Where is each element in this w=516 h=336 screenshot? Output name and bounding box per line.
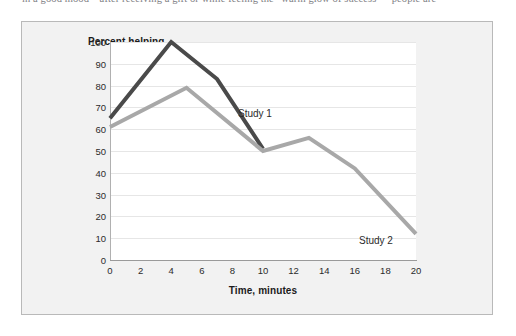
x-axis-tick-label: 8: [220, 265, 244, 276]
series-lines: [110, 42, 416, 261]
series-label-study-2: Study 2: [359, 235, 393, 246]
y-axis-tick-label: 50: [80, 146, 106, 157]
y-axis-tick-label: 80: [80, 80, 106, 91]
line-chart: Percent helping 0102030405060708090100 0…: [22, 22, 494, 316]
x-axis-title: Time, minutes: [110, 285, 416, 296]
x-axis-tick-label: 10: [251, 265, 275, 276]
x-axis-tick-label: 2: [129, 265, 153, 276]
page-text-fragment: in a good mood—after receiving a gift or…: [0, 0, 516, 9]
x-axis-tick-label: 14: [312, 265, 336, 276]
x-axis-tick-label: 0: [98, 265, 122, 276]
y-axis-tick-label: 20: [80, 211, 106, 222]
y-axis-tick-label: 10: [80, 233, 106, 244]
x-axis-tick-label: 16: [343, 265, 367, 276]
x-axis-tick-label: 12: [282, 265, 306, 276]
x-axis-tick-labels: 02468101214161820: [110, 265, 416, 279]
series-label-study-1: Study 1: [238, 108, 272, 119]
x-axis-tick-label: 20: [404, 265, 428, 276]
x-axis-tick-label: 18: [373, 265, 397, 276]
y-axis-tick-label: 90: [80, 58, 106, 69]
y-axis-tick-label: 60: [80, 124, 106, 135]
x-axis-tick-label: 6: [190, 265, 214, 276]
y-axis-tick-label: 30: [80, 189, 106, 200]
y-axis-tick-label: 100: [80, 37, 106, 48]
y-axis-tick-label: 0: [80, 255, 106, 266]
y-axis-tick-label: 70: [80, 102, 106, 113]
figure-panel: Percent helping 0102030405060708090100 0…: [21, 21, 493, 315]
y-axis-tick-label: 40: [80, 167, 106, 178]
x-axis-tick-label: 4: [159, 265, 183, 276]
y-axis-tick-labels: 0102030405060708090100: [76, 42, 106, 260]
page-text-fragment-line: in a good mood—after receiving a gift or…: [22, 0, 494, 4]
